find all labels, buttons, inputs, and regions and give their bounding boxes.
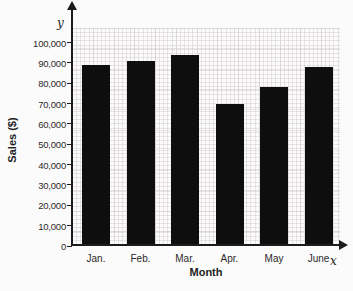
y-tick-label: 10,000 bbox=[38, 220, 66, 231]
plot-area bbox=[72, 28, 340, 246]
y-tick-mark bbox=[67, 83, 72, 84]
y-tick-mark bbox=[67, 164, 72, 165]
x-tick-label: June bbox=[297, 253, 341, 264]
y-tick-label: 100,000 bbox=[33, 37, 66, 48]
bar-apr bbox=[216, 104, 244, 246]
y-tick-label: 30,000 bbox=[38, 179, 66, 190]
bar-jan bbox=[82, 65, 110, 246]
x-tick-label: Jan. bbox=[74, 253, 118, 264]
y-tick-mark bbox=[67, 225, 72, 226]
y-tick-label: 20,000 bbox=[38, 200, 66, 211]
x-tick-label: Mar. bbox=[163, 253, 207, 264]
y-tick-mark bbox=[67, 103, 72, 104]
y-axis-variable-label: y bbox=[57, 16, 64, 30]
y-tick-mark bbox=[67, 144, 72, 145]
y-tick-label: 60,000 bbox=[38, 118, 66, 129]
y-tick-mark bbox=[67, 184, 72, 185]
y-axis-title: Sales ($) bbox=[6, 100, 20, 180]
y-tick-label: 80,000 bbox=[38, 78, 66, 89]
y-tick-label: 50,000 bbox=[38, 139, 66, 150]
y-tick-mark bbox=[67, 205, 72, 206]
x-axis-line bbox=[71, 244, 340, 246]
y-tick-mark bbox=[67, 42, 72, 43]
y-axis-arrowhead-icon bbox=[67, 1, 77, 10]
y-tick-mark bbox=[67, 62, 72, 63]
y-tick-label: 40,000 bbox=[38, 159, 66, 170]
y-tick-label: 90,000 bbox=[38, 57, 66, 68]
bar-may bbox=[260, 87, 288, 246]
y-tick-label: 70,000 bbox=[38, 98, 66, 109]
y-tick-mark bbox=[67, 246, 72, 247]
x-tick-label: Feb. bbox=[119, 253, 163, 264]
y-tick-label: 0 bbox=[61, 241, 66, 252]
bar-chart-figure: y x Sales ($) Month 010,00020,00030,0004… bbox=[0, 0, 353, 291]
bar-feb bbox=[127, 61, 155, 246]
bar-june bbox=[305, 67, 333, 246]
y-tick-mark bbox=[67, 123, 72, 124]
x-tick-label: May bbox=[252, 253, 296, 264]
x-tick-label: Apr. bbox=[208, 253, 252, 264]
x-axis-arrowhead-icon bbox=[339, 240, 348, 250]
x-axis-title: Month bbox=[176, 266, 236, 278]
bar-mar bbox=[171, 55, 199, 246]
y-axis-line bbox=[71, 10, 73, 246]
